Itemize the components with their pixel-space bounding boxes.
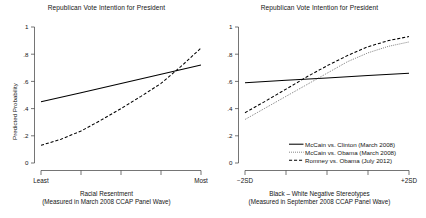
series-line-mccain-clinton bbox=[41, 65, 201, 102]
x-axis-title-left-line1: Racial Resentment bbox=[0, 190, 213, 198]
legend-label-mccain-obama: McCain vs. Obama (March 2008) bbox=[305, 149, 396, 156]
x-axis-ticks-right bbox=[245, 171, 409, 176]
y-tick-label: 1 bbox=[25, 23, 29, 30]
y-tick-label: .8 bbox=[227, 51, 233, 58]
x-tick-label-most: Most bbox=[194, 177, 208, 184]
plot-area-right: 0 .2 .4 .6 .8 1 −2SD +2SD McCain v bbox=[213, 0, 426, 218]
x-axis-title-right: Black – White Negative Stereotypes (Meas… bbox=[213, 190, 426, 206]
x-axis-title-left: Racial Resentment (Measured in March 200… bbox=[0, 190, 213, 206]
y-tick-label: .2 bbox=[227, 132, 233, 139]
panel-negative-stereotypes: Republican Vote Intention for President … bbox=[213, 0, 426, 218]
legend-label-romney-obama: Romney vs. Obama (July 2012) bbox=[305, 157, 392, 164]
plot-area-left: 0 .2 .4 .6 .8 1 Least Most bbox=[0, 0, 213, 218]
x-tick-label-plus2sd: +2SD bbox=[401, 177, 417, 184]
x-axis-title-left-line2: (Measured in March 2008 CCAP Panel Wave) bbox=[0, 198, 213, 206]
x-axis-title-right-line1: Black – White Negative Stereotypes bbox=[213, 190, 426, 198]
x-tick-label-least: Least bbox=[33, 177, 49, 184]
figure-two-panel-chart: Republican Vote Intention for President … bbox=[0, 0, 426, 218]
y-axis-ticks-right bbox=[235, 27, 239, 163]
panel-racial-resentment: Republican Vote Intention for President … bbox=[0, 0, 213, 218]
series-line-mccain-clinton bbox=[245, 73, 409, 83]
y-tick-label: .6 bbox=[227, 78, 233, 85]
y-tick-label: .2 bbox=[23, 132, 29, 139]
y-tick-label: 0 bbox=[229, 159, 233, 166]
y-tick-label: .8 bbox=[23, 51, 29, 58]
y-axis-ticks-left bbox=[31, 27, 35, 163]
x-axis-title-right-line2: (Measured in September 2008 CCAP Panel W… bbox=[213, 198, 426, 206]
y-tick-label: .4 bbox=[227, 105, 233, 112]
legend-label-mccain-clinton: McCain vs. Clinton (March 2008) bbox=[305, 141, 395, 148]
y-tick-label: .4 bbox=[23, 105, 29, 112]
y-tick-label: .6 bbox=[23, 78, 29, 85]
x-axis-ticks-left bbox=[41, 171, 201, 176]
x-tick-label-minus2sd: −2SD bbox=[237, 177, 253, 184]
y-tick-label: 0 bbox=[25, 159, 29, 166]
y-tick-label: 1 bbox=[229, 23, 233, 30]
legend: McCain vs. Clinton (March 2008) McCain v… bbox=[289, 141, 396, 164]
series-line-mccain-obama bbox=[245, 42, 409, 120]
